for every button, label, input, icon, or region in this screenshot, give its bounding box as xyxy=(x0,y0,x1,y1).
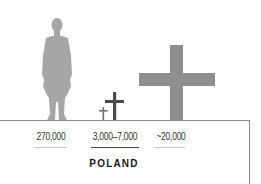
medium-cross-icon xyxy=(105,92,125,121)
underline-270000 xyxy=(34,147,67,148)
large-cross-icon xyxy=(139,45,215,121)
value-label-3000-7000: 3,000–7,000 xyxy=(87,131,143,142)
ground-line xyxy=(0,120,250,121)
human-silhouette-icon xyxy=(38,16,76,122)
underline-3000-7000 xyxy=(91,147,139,148)
value-label-270000: 270,000 xyxy=(30,131,73,142)
right-border xyxy=(249,120,250,184)
country-label: POLAND xyxy=(78,158,150,169)
underline-20000 xyxy=(154,147,185,148)
value-label-20000: ~20,000 xyxy=(151,131,190,142)
